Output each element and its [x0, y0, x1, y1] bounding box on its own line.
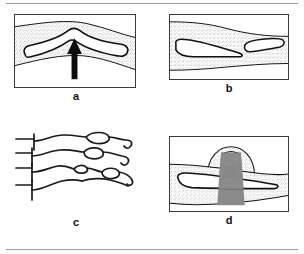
panel-a-drawing [15, 15, 135, 87]
top-divider-rule [6, 3, 298, 4]
fiber-group-c [16, 133, 133, 201]
fiber-4 [16, 179, 128, 200]
fiber-2 [16, 148, 129, 166]
bottom-divider-rule [6, 249, 298, 250]
panel-b-drawing [170, 15, 288, 79]
figure-sheet: a [0, 0, 304, 254]
panel-c [14, 128, 136, 210]
panel-a-label: a [61, 90, 91, 102]
panel-b-label: b [214, 82, 244, 94]
panel-b [169, 14, 289, 80]
fiber-1 [16, 133, 132, 151]
panel-d [169, 136, 289, 212]
panel-c-drawing [14, 128, 136, 210]
panel-d-drawing [170, 137, 288, 211]
panel-d-label: d [214, 214, 244, 226]
panel-a [14, 14, 136, 88]
panel-c-label: c [61, 216, 91, 228]
